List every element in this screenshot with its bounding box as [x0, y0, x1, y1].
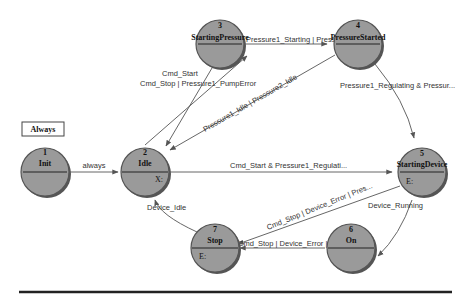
state-diagram: Always always Cmd_Start Cmd_Stop | Press… [0, 0, 468, 296]
state-stop[interactable]: 7 Stop E: [191, 224, 241, 274]
state-name: StartingDevice [397, 160, 448, 169]
edge-label-always: always [83, 161, 106, 170]
edge-label-cmd-start-regulating: Cmd_Start & Pressure1_Regulati... [230, 161, 347, 170]
edge-label-cmd-stop-pumperror: Cmd_Stop | Pressure1_PumpError [140, 79, 257, 88]
state-number: 3 [218, 21, 222, 30]
edge-label-device-idle: Device_Idle [147, 203, 186, 212]
state-name: PressureStarted [331, 33, 386, 42]
state-number: 4 [356, 21, 360, 30]
state-name: StartingPressure [191, 33, 249, 42]
always-box[interactable]: Always [22, 122, 64, 136]
state-name: Init [39, 159, 52, 168]
state-name: On [346, 236, 357, 245]
state-number: 6 [349, 225, 353, 234]
state-number: 2 [143, 148, 147, 157]
state-number: 7 [213, 225, 217, 234]
always-label: Always [31, 125, 56, 134]
state-startingdevice[interactable]: 5 StartingDevice E: [397, 148, 448, 198]
edge-pressurestarted-startingdevice[interactable] [375, 64, 414, 138]
state-startingpressure[interactable]: 3 StartingPressure [191, 20, 249, 70]
state-idle[interactable]: 2 Idle X: [121, 148, 171, 198]
edge-label-cmd-start: Cmd_Start [162, 69, 199, 78]
state-name: Stop [207, 236, 223, 245]
state-action: E: [199, 252, 206, 261]
state-action: E: [406, 177, 413, 186]
state-number: 1 [43, 148, 47, 157]
state-action: X: [155, 175, 163, 184]
state-number: 5 [420, 149, 424, 158]
edge-label-device-running: Device_Running [368, 201, 423, 210]
state-name: Idle [138, 159, 152, 168]
state-init[interactable]: 1 Init [21, 148, 71, 198]
transitions: always Cmd_Start Cmd_Stop | Pressure1_Pu… [70, 35, 455, 256]
edge-startingdevice-stop[interactable] [238, 186, 400, 244]
edge-label-pressure1-regulating: Pressure1_Regulating & Pressur... [340, 81, 455, 90]
state-on[interactable]: 6 On [327, 224, 377, 274]
state-pressurestarted[interactable]: 4 PressureStarted [331, 20, 386, 70]
